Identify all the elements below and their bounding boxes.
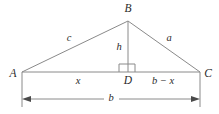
triangle-side-a (128, 21, 200, 72)
geometry-diagram: A B C D c a h x b − x b (0, 0, 219, 114)
arrowhead-right-icon (191, 96, 200, 102)
vertex-label-a: A (9, 68, 16, 80)
triangle-side-c (22, 21, 128, 72)
right-angle-marker-icon (119, 64, 135, 72)
vertex-label-c: C (204, 68, 212, 80)
segment-label-x: x (76, 76, 81, 87)
side-label-c: c (67, 33, 72, 44)
arrowhead-left-icon (22, 96, 31, 102)
vertex-label-d: D (124, 75, 132, 87)
side-label-a: a (166, 33, 171, 44)
dimension-label-b: b (108, 93, 113, 104)
vertex-label-b: B (124, 3, 131, 15)
altitude-label-h: h (116, 42, 121, 53)
segment-label-b-minus-x: b − x (152, 76, 174, 87)
